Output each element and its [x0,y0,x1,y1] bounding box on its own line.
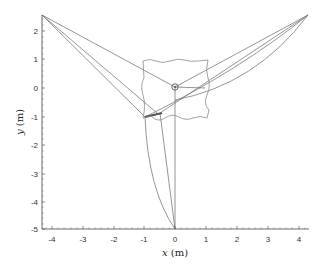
x-tick-label: -4 [48,235,56,244]
y-tick-label: -1 [31,113,39,122]
y-tick-labels: -5 -4 -3 -2 -1 0 1 2 [31,27,39,234]
axes [42,15,309,229]
y-tick-label: -4 [31,198,39,207]
x-tick-label: -3 [79,235,87,244]
y-axis-var: y [14,129,25,136]
x-tick-label: 2 [235,235,240,244]
line-tl-to-knot [42,15,145,117]
y-tick-label: 1 [34,55,39,64]
x-tick-label: 1 [204,235,209,244]
y-axis-title: y (m) [14,109,25,136]
y-tick-label: -5 [31,225,39,234]
x-axis-var: x [162,247,168,258]
x-tick-label: 3 [266,235,271,244]
curve-tr-to-knot [145,15,308,117]
x-tick-label: 0 [173,235,178,244]
x-ticks [46,226,305,229]
y-tick-label: 0 [34,84,39,93]
line-tl-to-center [42,15,175,87]
y-tick-label: -2 [31,141,39,150]
y-tick-label: -3 [31,170,39,179]
y-axis-unit: (m) [14,109,25,126]
y-ticks [42,19,45,229]
x-tick-labels: -4 -3 -2 -1 0 1 2 3 4 [48,235,301,244]
x-tick-label: -2 [110,235,118,244]
x-axis-title: x (m) [162,247,188,258]
y-tick-label: 2 [34,27,39,36]
line-box-to-bottom [160,113,175,229]
chart: -4 -3 -2 -1 0 1 2 3 4 -5 -4 -3 -2 -1 0 1… [0,0,326,271]
line-tl-to-box [42,15,157,113]
curve-knot-to-bottom [145,117,175,229]
line-tr-to-center [175,15,308,87]
plot-lines [42,15,308,229]
wavy-box [142,59,210,120]
x-axis-unit: (m) [171,247,188,258]
x-tick-label: -1 [140,235,148,244]
center-dot [174,86,176,88]
x-tick-label: 4 [297,235,302,244]
thick-segment [145,113,162,117]
